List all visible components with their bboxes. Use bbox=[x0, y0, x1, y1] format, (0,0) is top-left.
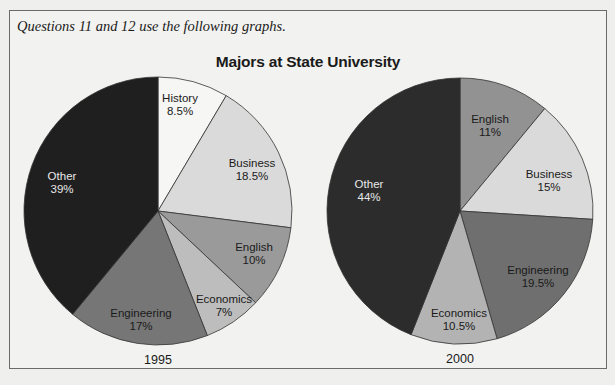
pie-charts: History8.5%Business18.5%English10%Econom… bbox=[0, 0, 615, 385]
pie-chart-1995: History8.5%Business18.5%English10%Econom… bbox=[24, 77, 292, 367]
pie-year-label: 1995 bbox=[144, 353, 172, 367]
pie-chart-2000: English11%Business15%Engineering19.5%Eco… bbox=[327, 78, 593, 366]
slice-label-other: Other44% bbox=[355, 178, 384, 203]
slice-label-history: History8.5% bbox=[162, 92, 198, 117]
slice-label-other: Other39% bbox=[48, 170, 77, 195]
pie-year-label: 2000 bbox=[446, 352, 474, 366]
